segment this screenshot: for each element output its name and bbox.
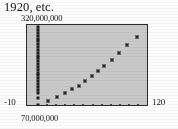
- x-axis-tick: [55, 104, 57, 106]
- x-axis-tick: [101, 104, 103, 106]
- plot-canvas: [27, 25, 147, 105]
- x-axis-min-label: -10: [4, 98, 16, 107]
- x-axis-tick: [73, 104, 75, 106]
- x-axis-tick: [64, 104, 66, 106]
- data-point: [83, 79, 87, 83]
- x-axis-tick: [137, 104, 139, 106]
- figure-container: 1920, etc. 320,000,000 70,000,000 -10 12…: [0, 0, 178, 129]
- data-point: [70, 87, 74, 91]
- data-point: [117, 51, 121, 55]
- y-axis-max-label: 320,000,000: [21, 14, 62, 23]
- data-point: [36, 91, 39, 94]
- figure-caption: 1920, etc.: [4, 0, 54, 14]
- data-point: [63, 91, 67, 95]
- x-axis-tick: [46, 104, 48, 106]
- data-point: [135, 35, 139, 39]
- x-axis-tick: [147, 104, 149, 106]
- data-point: [77, 84, 81, 88]
- data-point: [55, 95, 59, 99]
- x-axis-tick: [110, 104, 112, 106]
- x-axis-max-label: 120: [152, 98, 165, 107]
- x-axis-tick: [82, 104, 84, 106]
- plot-area: [26, 24, 148, 106]
- data-point: [36, 103, 39, 106]
- data-point: [90, 74, 94, 78]
- data-point: [110, 58, 114, 62]
- x-axis-tick: [128, 104, 130, 106]
- data-point: [125, 43, 129, 47]
- data-point: [36, 96, 39, 99]
- data-point: [96, 69, 100, 73]
- x-axis-tick: [119, 104, 121, 106]
- y-axis-min-label: 70,000,000: [21, 114, 58, 123]
- data-point: [102, 64, 106, 68]
- x-axis-tick: [92, 104, 94, 106]
- data-point: [46, 99, 50, 103]
